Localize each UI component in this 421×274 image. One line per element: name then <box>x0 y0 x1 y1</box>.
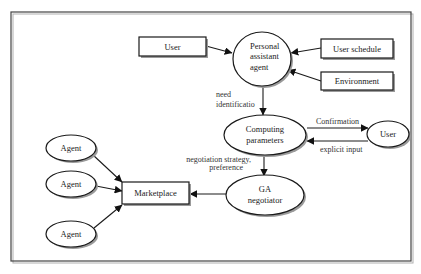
edge-label-confirmation: Confirmation <box>316 117 359 126</box>
edge-label-explicit-input: explicit input <box>320 145 363 154</box>
node-user-top-label: User <box>164 42 180 52</box>
edge-label-need-line1: need <box>216 90 231 99</box>
ga-label-line2: negotiator <box>248 195 283 205</box>
cp-label-line2: parameters <box>246 135 283 145</box>
node-marketplace-label: Marketplace <box>134 188 177 198</box>
node-user-top: User <box>139 37 208 58</box>
node-agent-2: Agent <box>46 171 98 199</box>
node-user-right: User <box>367 121 411 149</box>
node-agent-3: Agent <box>46 221 98 249</box>
agent-3-label: Agent <box>61 229 82 239</box>
pa-label-line1: Personal <box>250 41 280 51</box>
node-personal-assistant-agent: Personal assistant agent <box>233 32 293 88</box>
node-ga-negotiator: GA negotiator <box>226 175 306 217</box>
node-marketplace: Marketplace <box>122 182 191 206</box>
edge-schedule-to-pa <box>291 48 321 53</box>
node-user-right-label: User <box>380 129 396 139</box>
agent-1-label: Agent <box>61 143 82 153</box>
node-computing-parameters: Computing parameters <box>224 115 308 157</box>
edge-agent2-to-marketplace <box>96 186 122 191</box>
agent-2-label: Agent <box>61 179 82 189</box>
pa-label-line3: agent <box>250 62 269 72</box>
edge-label-need-line2: identificatio <box>216 100 255 109</box>
node-agent-1: Agent <box>46 135 98 163</box>
edge-user-to-pa <box>206 46 232 53</box>
ga-label-line1: GA <box>259 184 272 194</box>
edge-agent3-to-marketplace <box>94 205 122 228</box>
node-user-schedule-label: User schedule <box>333 44 381 54</box>
edge-environment-to-pa <box>288 70 321 81</box>
edge-label-strategy-line2: preference <box>209 163 243 172</box>
edge-agent1-to-marketplace <box>93 155 122 182</box>
node-environment: Environment <box>321 72 395 92</box>
node-user-schedule: User schedule <box>321 39 395 60</box>
node-environment-label: Environment <box>335 76 380 86</box>
pa-label-line2: assistant <box>250 51 279 61</box>
cp-label-line1: Computing <box>246 124 285 134</box>
system-architecture-diagram: User Personal assistant agent User sched… <box>0 0 421 274</box>
